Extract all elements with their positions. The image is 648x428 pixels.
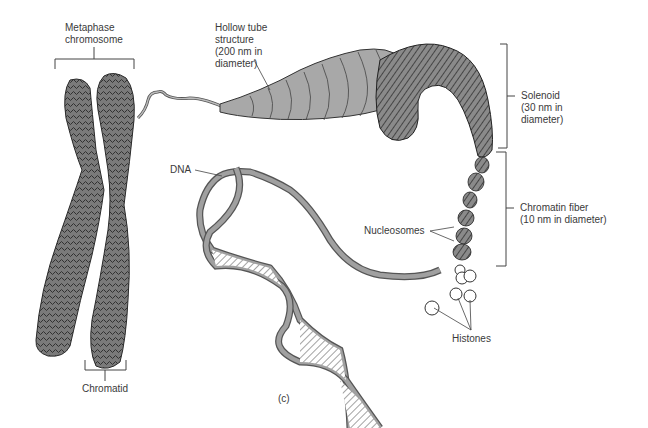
chromatin-fiber-beads <box>453 157 489 260</box>
histones-label: Histones <box>452 333 491 345</box>
chromatin-fiber-bracket <box>496 152 506 266</box>
chromatin-fiber-label: Chromatin fiber (10 nm in diameter) <box>520 202 607 226</box>
chromatin-thread <box>138 91 230 118</box>
solenoid-bracket <box>498 44 507 148</box>
hollow-tube-label: Hollow tube structure (200 nm in diamete… <box>215 22 267 70</box>
solenoid-coil <box>376 44 493 157</box>
metaphase-chromosome <box>36 73 134 368</box>
panel-label: (c) <box>278 393 290 405</box>
metaphase-chromosome-label: Metaphase chromosome <box>65 22 123 46</box>
histones-leader-1 <box>434 308 471 330</box>
solenoid-label: Solenoid (30 nm in diameter) <box>521 90 563 126</box>
histones-leader-2 <box>458 298 471 330</box>
nucleosomes-leader-2 <box>430 231 454 241</box>
metaphase-bracket <box>55 47 134 69</box>
chromatid-label: Chromatid <box>82 383 128 395</box>
dna-double-helix <box>200 168 440 428</box>
dna-label: DNA <box>170 164 191 176</box>
dna-leader <box>195 170 222 176</box>
histones-leader-3 <box>470 300 471 330</box>
nucleosomes-label: Nucleosomes <box>364 225 425 237</box>
nucleosomes-leader-1 <box>430 227 454 231</box>
